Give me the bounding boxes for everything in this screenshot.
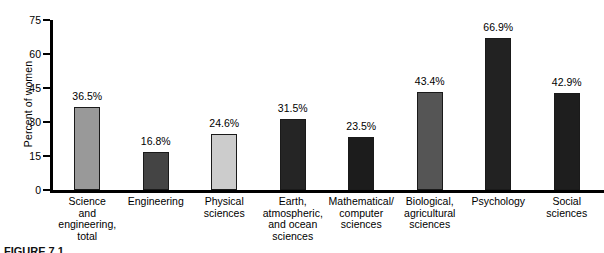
bar <box>74 107 100 190</box>
y-tick-mark <box>43 155 50 157</box>
bar-group: 42.9%Social sciences <box>533 20 602 190</box>
bar <box>554 93 580 190</box>
bar-value-label: 31.5% <box>278 102 308 114</box>
bar-value-label: 36.5% <box>72 90 102 102</box>
bar <box>417 92 443 190</box>
y-tick-label: 0 <box>35 184 41 196</box>
bar-group: 66.9%Psychology <box>464 20 533 190</box>
x-axis-line <box>50 190 604 193</box>
bar-group: 23.5%Mathematical/ computer sciences <box>327 20 396 190</box>
y-tick-label: 30 <box>29 116 41 128</box>
x-axis-category-label: Social sciences <box>527 196 604 219</box>
bar-group: 43.4%Biological, agricultural sciences <box>396 20 465 190</box>
bar-group: 36.5%Science and engineering, total <box>53 20 122 190</box>
plot-area: 01530456075 36.5%Science and engineering… <box>50 20 600 190</box>
y-tick-mark <box>43 87 50 89</box>
y-tick-label: 15 <box>29 150 41 162</box>
y-tick-mark <box>43 189 50 191</box>
figure-caption: FIGURE 7.1 <box>4 245 64 253</box>
bar-value-label: 42.9% <box>552 76 582 88</box>
bar <box>143 152 169 190</box>
bar-value-label: 16.8% <box>141 135 171 147</box>
y-tick-label: 75 <box>29 14 41 26</box>
y-tick-label: 45 <box>29 82 41 94</box>
bar-group: 16.8%Engineering <box>122 20 191 190</box>
bar <box>348 137 374 190</box>
y-tick-label: 60 <box>29 48 41 60</box>
bar-value-label: 24.6% <box>209 117 239 129</box>
bar-value-label: 66.9% <box>483 21 513 33</box>
bar-value-label: 23.5% <box>346 120 376 132</box>
bar-chart-figure: Percent of women 01530456075 36.5%Scienc… <box>0 0 604 253</box>
bar-group: 24.6%Physical sciences <box>190 20 259 190</box>
bar-value-label: 43.4% <box>415 75 445 87</box>
y-tick-mark <box>43 121 50 123</box>
y-tick-mark <box>43 19 50 21</box>
y-axis-title: Percent of women <box>22 14 34 194</box>
y-tick-mark <box>43 53 50 55</box>
bar <box>485 38 511 190</box>
bar <box>280 119 306 190</box>
bar-group: 31.5%Earth, atmospheric, and ocean scien… <box>259 20 328 190</box>
bar <box>211 134 237 190</box>
